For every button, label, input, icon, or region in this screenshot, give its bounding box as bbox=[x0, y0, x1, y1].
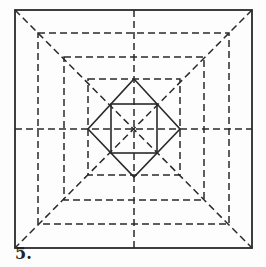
figure-label: 5. bbox=[15, 244, 32, 263]
diagram bbox=[0, 0, 266, 267]
